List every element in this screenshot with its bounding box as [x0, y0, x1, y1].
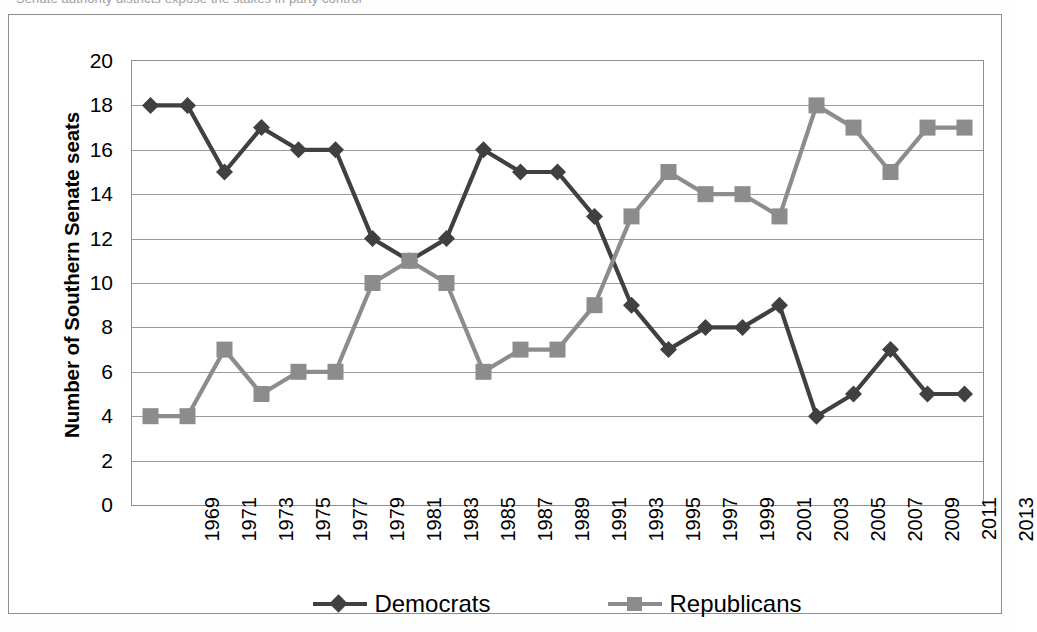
x-tick-label: 1979: [375, 507, 395, 587]
y-tick-label: 6: [101, 361, 113, 382]
data-point-republicans-1971: [180, 408, 196, 424]
x-tick-label: 2001: [782, 507, 802, 587]
data-point-republicans-1985: [439, 275, 455, 291]
data-point-democrats-1971: [179, 97, 196, 114]
data-point-republicans-1981: [365, 275, 381, 291]
y-tick-label: 20: [90, 50, 113, 71]
data-point-republicans-2005: [809, 97, 825, 113]
x-tick-label: 2013: [1004, 507, 1024, 587]
legend-swatch-diamond-icon: [313, 593, 367, 615]
data-point-republicans-2003: [772, 208, 788, 224]
data-point-democrats-2013: [956, 386, 973, 403]
y-tick-label: 18: [90, 94, 113, 115]
data-point-republicans-1995: [624, 208, 640, 224]
data-point-republicans-1989: [513, 342, 529, 358]
legend-entry-republicans[interactable]: Republicans: [608, 592, 801, 616]
plot-area: [131, 60, 984, 506]
data-point-democrats-1979: [327, 141, 344, 158]
y-tick-label: 12: [90, 228, 113, 249]
data-point-republicans-1999: [698, 186, 714, 202]
cut-off-caption-strip: Senate authority districts expose the st…: [0, 0, 1012, 11]
y-tick-label: 4: [101, 405, 113, 426]
x-tick-label: 1973: [264, 507, 284, 587]
x-tick-label: 1991: [597, 507, 617, 587]
x-tick-label: 2011: [967, 507, 987, 587]
y-tick-label: 8: [101, 316, 113, 337]
figure-frame: Number of Southern Senate seats 02468101…: [8, 14, 1002, 614]
x-tick-label: 1977: [338, 507, 358, 587]
data-point-republicans-2009: [883, 164, 899, 180]
legend-entry-democrats[interactable]: Democrats: [313, 592, 490, 616]
legend-swatch-square-icon: [608, 593, 662, 615]
cut-off-caption-text: Senate authority districts expose the st…: [16, 0, 362, 6]
data-point-republicans-1991: [550, 342, 566, 358]
data-point-republicans-1983: [402, 253, 418, 269]
x-tick-label: 1983: [449, 507, 469, 587]
x-tick-label: 2005: [856, 507, 876, 587]
x-tick-label: 1987: [523, 507, 543, 587]
x-tick-label: 1997: [708, 507, 728, 587]
data-point-republicans-1987: [476, 364, 492, 380]
x-tick-label: 1995: [671, 507, 691, 587]
series-line-democrats: [151, 105, 965, 416]
plot-svg: [132, 61, 983, 505]
legend-marker-diamond-icon: [330, 594, 348, 612]
x-tick-label: 1989: [560, 507, 580, 587]
y-tick-label: 10: [90, 272, 113, 293]
y-tick-label: 16: [90, 139, 113, 160]
legend-marker-square-icon: [627, 597, 642, 611]
data-point-republicans-1979: [328, 364, 344, 380]
x-tick-label: 1985: [486, 507, 506, 587]
x-tick-label: 1969: [190, 507, 210, 587]
y-tick-label: 2: [101, 450, 113, 471]
data-point-republicans-2001: [735, 186, 751, 202]
data-point-republicans-1969: [143, 408, 159, 424]
x-tick-label: 1993: [634, 507, 654, 587]
data-point-republicans-2007: [846, 120, 862, 136]
legend-label: Democrats: [374, 592, 490, 616]
legend-label: Republicans: [669, 592, 801, 616]
data-point-republicans-1993: [587, 297, 603, 313]
data-point-republicans-1997: [661, 164, 677, 180]
y-tick-label: 0: [101, 494, 113, 515]
x-tick-label: 1971: [227, 507, 247, 587]
data-point-democrats-1969: [142, 97, 159, 114]
chart-legend: DemocratsRepublicans: [131, 587, 984, 621]
data-point-republicans-1975: [254, 386, 270, 402]
x-axis-tick-labels: 1969197119731975197719791981198319851987…: [131, 507, 984, 587]
x-tick-label: 2003: [819, 507, 839, 587]
y-axis-tick-labels: 02468101214161820: [61, 46, 113, 506]
x-tick-label: 2007: [893, 507, 913, 587]
x-tick-label: 1981: [412, 507, 432, 587]
data-point-republicans-1973: [217, 342, 233, 358]
x-tick-label: 1975: [301, 507, 321, 587]
data-point-republicans-1977: [291, 364, 307, 380]
x-tick-label: 1999: [745, 507, 765, 587]
data-point-republicans-2013: [957, 120, 973, 136]
series-line-republicans: [151, 105, 965, 416]
x-tick-label: 2009: [930, 507, 950, 587]
data-point-republicans-2011: [920, 120, 936, 136]
y-tick-label: 14: [90, 183, 113, 204]
